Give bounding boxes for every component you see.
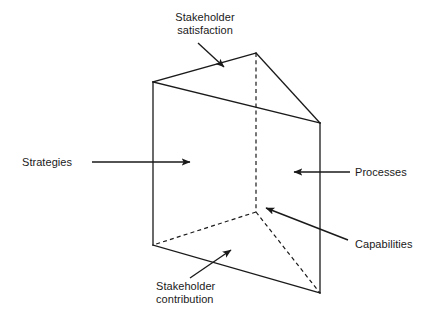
top-left-ridge-edge <box>153 53 256 82</box>
arrow-stakeholder-satisfaction <box>198 43 224 67</box>
label-strategies: Strategies <box>22 156 88 169</box>
arrow-stakeholder-contribution <box>190 250 231 278</box>
prism-solid-edges <box>153 53 320 293</box>
label-stakeholder-satisfaction: Stakeholder satisfaction <box>155 11 255 36</box>
bottom-back-left-edge <box>153 212 256 245</box>
callout-arrows <box>92 43 350 278</box>
label-stakeholder-contribution: Stakeholder contribution <box>156 280 252 305</box>
label-capabilities: Capabilities <box>355 238 431 251</box>
bottom-back-right-edge <box>256 212 320 293</box>
arrow-capabilities <box>266 208 348 240</box>
prism-dashed-edges <box>153 53 320 293</box>
top-right-ridge-edge <box>256 53 320 123</box>
top-front-edge <box>153 82 320 123</box>
performance-prism-diagram: Stakeholder satisfaction Strategies Proc… <box>0 0 433 320</box>
label-processes: Processes <box>355 166 427 179</box>
